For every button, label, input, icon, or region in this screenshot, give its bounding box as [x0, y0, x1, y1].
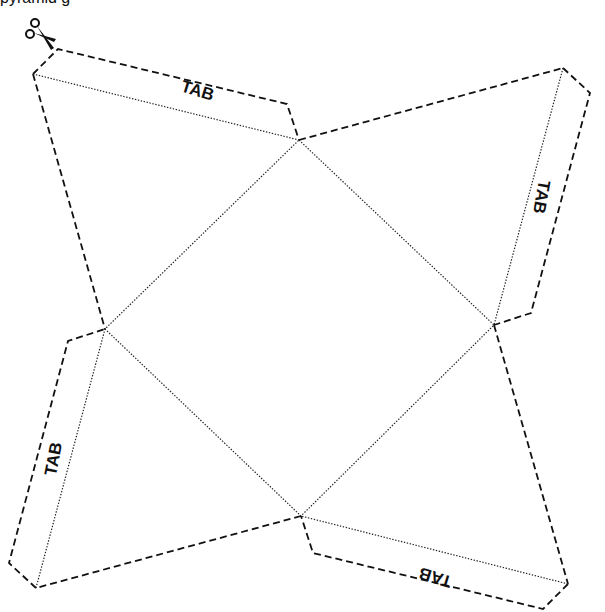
tab-labels: TAB TAB TAB TAB [41, 77, 554, 592]
cut-line-top-left-edge [33, 74, 105, 329]
scissors-icon [26, 19, 56, 50]
fold-line-right-tab [494, 68, 563, 325]
tab-label-top: TAB [179, 77, 217, 105]
cut-lines [9, 49, 590, 609]
cut-line-bottom-right-edge [494, 325, 568, 584]
cut-line-bottom-left-edge [36, 516, 301, 588]
tab-label-right: TAB [529, 179, 554, 215]
fold-line-base-square [105, 140, 494, 516]
tab-label-left: TAB [41, 441, 66, 478]
fold-line-top-tab [33, 74, 299, 140]
cut-line-top-tab [33, 49, 299, 140]
tab-label-bottom: TAB [417, 563, 455, 591]
cut-line-bottom-tab [301, 516, 568, 609]
fold-lines [33, 68, 568, 588]
pyramid-net-diagram: TAB TAB TAB TAB [0, 0, 605, 612]
cut-line-top-right-edge [299, 68, 563, 140]
